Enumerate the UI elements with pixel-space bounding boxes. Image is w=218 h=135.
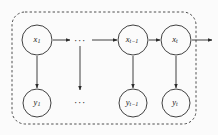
top-ellipsis: ··· bbox=[74, 35, 86, 46]
node-ytm1-sub: t−1 bbox=[130, 102, 139, 108]
diagram-canvas: x1 xt−1 xt y1 yt−1 yt ··· ··· bbox=[0, 0, 218, 135]
node-y1-sub: 1 bbox=[37, 102, 40, 108]
graphical-model-svg: x1 xt−1 xt y1 yt−1 yt ··· ··· bbox=[0, 0, 218, 135]
node-xtm1-sub: t−1 bbox=[130, 39, 139, 45]
bottom-ellipsis: ··· bbox=[74, 97, 86, 108]
node-x1-sub: 1 bbox=[37, 39, 40, 45]
